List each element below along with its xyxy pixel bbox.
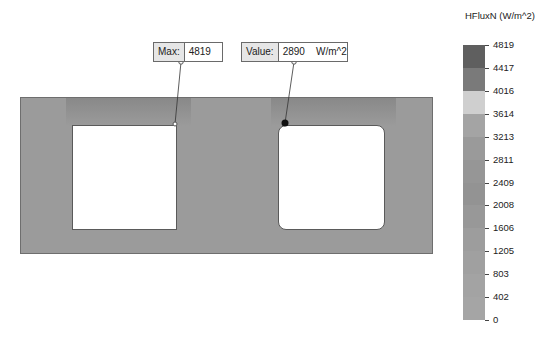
legend-tick-label: 2409 [493,177,514,188]
legend-tick-mark [485,137,489,138]
legend-band [463,137,485,160]
legend-tick-label: 0 [493,314,498,325]
legend-band [463,205,485,228]
legend-tick-mark [485,274,489,275]
legend-tick-mark [485,228,489,229]
legend-band [463,114,485,137]
max-probe-callout[interactable]: Max: 4819 [153,42,223,62]
legend-tick-mark [485,91,489,92]
value-probe-callout[interactable]: Value: 2890 W/m^2 [241,42,348,62]
legend-tick-mark [485,160,489,161]
legend-band [463,228,485,251]
legend-band [463,183,485,206]
legend-tick-label: 2811 [493,154,513,165]
legend-tick-label: 3213 [493,131,514,142]
legend-tick-mark [485,251,489,252]
legend-tick-label: 1205 [493,245,514,256]
max-probe-value: 4819 [185,43,215,61]
legend-tick-mark [485,183,489,184]
legend-tick-mark [485,205,489,206]
legend-band [463,297,485,320]
color-legend-bar [463,45,485,320]
legend-tick-label: 2008 [493,199,514,210]
legend-band [463,274,485,297]
legend-band [463,45,485,68]
legend-tick-mark [485,114,489,115]
max-probe-label: Max: [154,43,185,61]
legend-tick-label: 803 [493,268,509,279]
legend-tick-label: 4417 [493,62,514,73]
legend-tick-label: 4016 [493,85,514,96]
legend-band [463,251,485,274]
legend-tick-mark [485,320,489,321]
legend-tick-mark [485,68,489,69]
legend-tick-label: 1606 [493,222,514,233]
legend-tick-mark [485,297,489,298]
legend-band [463,91,485,114]
legend-tick-mark [485,45,489,46]
legend-tick-label: 402 [493,291,509,302]
value-probe-label: Value: [242,43,279,61]
legend-band [463,160,485,183]
legend-title: HFluxN (W/m^2) [465,10,535,21]
value-probe-value: 2890 W/m^2 [279,43,351,61]
legend-tick-label: 4819 [493,39,514,50]
legend-tick-label: 3614 [493,108,514,119]
legend-band [463,68,485,91]
